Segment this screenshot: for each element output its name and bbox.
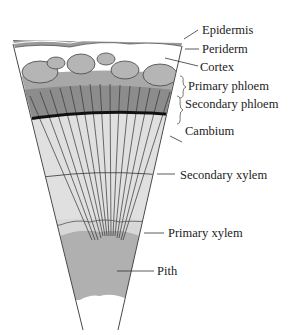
label-primary-xylem: Primary xylem — [168, 227, 243, 240]
label-pith: Pith — [157, 265, 177, 278]
label-secondary-xylem: Secondary xylem — [180, 169, 267, 182]
label-secondary-phloem: Secondary phloem — [185, 98, 278, 111]
label-periderm: Periderm — [202, 43, 248, 56]
label-epidermis: Epidermis — [202, 24, 253, 37]
label-primary-phloem: Primary phloem — [188, 80, 269, 93]
label-cambium: Cambium — [185, 125, 234, 138]
label-cortex: Cortex — [200, 61, 234, 74]
